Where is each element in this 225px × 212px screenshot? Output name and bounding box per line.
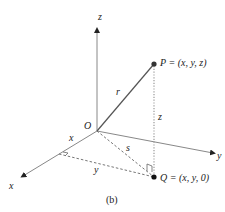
y-axis	[97, 131, 213, 153]
origin-label: O	[84, 120, 91, 131]
y-axis-label: y	[216, 150, 222, 161]
z-axis-label: z	[97, 11, 102, 22]
figure-caption: (b)	[106, 194, 118, 206]
x-axis	[23, 131, 97, 176]
point-q-label: Q = (x, y, 0)	[160, 172, 210, 184]
r-label: r	[116, 86, 120, 97]
z-height-label: z	[157, 111, 162, 122]
y-length-label: y	[93, 164, 99, 175]
right-angle-marker-q	[147, 164, 152, 172]
x-axis-label: x	[8, 180, 14, 191]
point-p-label: P = (x, y, z)	[159, 57, 207, 69]
point-p	[151, 61, 156, 66]
spherical-coordinates-diagram: z P = (x, y, z) r O x x y s z y Q = (x, …	[0, 0, 225, 212]
point-q	[151, 174, 156, 179]
r-segment	[97, 64, 154, 131]
x-length-label: x	[68, 132, 74, 143]
s-label: s	[126, 142, 130, 153]
